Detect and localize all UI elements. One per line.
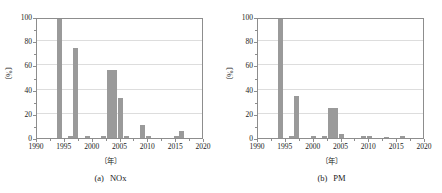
x-tick-mark bbox=[203, 139, 204, 142]
x-axis-ticks: 1990199520002005201020152020 bbox=[36, 139, 203, 155]
x-tick-label: 2005 bbox=[333, 143, 348, 151]
x-minor-tick-mark bbox=[189, 139, 190, 141]
x-tick-mark bbox=[36, 139, 37, 142]
y-axis-ticks: 020406080100 bbox=[221, 18, 253, 139]
x-tick-label: 2010 bbox=[361, 143, 376, 151]
bar bbox=[339, 134, 344, 138]
y-tick-label: 20 bbox=[25, 111, 33, 119]
y-tick-label: 100 bbox=[242, 14, 253, 22]
x-tick-mark bbox=[368, 139, 369, 142]
x-tick-label: 2020 bbox=[417, 143, 432, 151]
bar bbox=[179, 131, 184, 138]
x-minor-tick-mark bbox=[106, 139, 107, 141]
caption-id: (a) bbox=[95, 173, 104, 183]
bar bbox=[367, 136, 372, 138]
x-minor-tick-mark bbox=[161, 139, 162, 141]
bar bbox=[294, 96, 299, 138]
x-tick-label: 2005 bbox=[112, 143, 127, 151]
y-tick-label: 40 bbox=[246, 87, 254, 95]
x-tick-mark bbox=[396, 139, 397, 142]
x-minor-tick-mark bbox=[299, 139, 300, 141]
caption-text: PM bbox=[333, 173, 345, 183]
x-axis-label: 〔年〕 bbox=[0, 155, 221, 166]
plot-area bbox=[257, 18, 424, 139]
y-tick-label: 100 bbox=[21, 14, 32, 22]
x-tick-mark bbox=[175, 139, 176, 142]
figure-two-panel-bar-charts: 〔%〕 020406080100 19901995200020052010201… bbox=[0, 0, 442, 193]
x-minor-tick-mark bbox=[354, 139, 355, 141]
plot-area bbox=[36, 18, 203, 139]
x-minor-tick-mark bbox=[50, 139, 51, 141]
y-tick-label: 60 bbox=[25, 63, 33, 71]
x-tick-label: 1990 bbox=[250, 143, 265, 151]
bar bbox=[146, 136, 151, 138]
x-minor-tick-mark bbox=[382, 139, 383, 141]
x-tick-label: 2000 bbox=[305, 143, 320, 151]
plot-wrap bbox=[257, 18, 424, 139]
bar bbox=[124, 136, 129, 138]
x-tick-label: 2010 bbox=[140, 143, 155, 151]
x-tick-label: 1995 bbox=[277, 143, 292, 151]
bar bbox=[107, 70, 112, 138]
y-tick-label: 40 bbox=[25, 87, 33, 95]
x-axis-ticks: 1990199520002005201020152020 bbox=[257, 139, 424, 155]
bar bbox=[400, 136, 405, 138]
bar bbox=[112, 70, 117, 138]
bar bbox=[118, 98, 123, 138]
x-tick-mark bbox=[341, 139, 342, 142]
x-tick-label: 1995 bbox=[56, 143, 71, 151]
x-minor-tick-mark bbox=[271, 139, 272, 141]
x-tick-label: 1990 bbox=[29, 143, 44, 151]
y-axis-ticks: 020406080100 bbox=[0, 18, 32, 139]
x-minor-tick-mark bbox=[327, 139, 328, 141]
bar bbox=[57, 18, 62, 138]
x-minor-tick-mark bbox=[410, 139, 411, 141]
x-tick-mark bbox=[285, 139, 286, 142]
x-tick-mark bbox=[92, 139, 93, 142]
y-tick-label: 60 bbox=[246, 63, 254, 71]
y-tick-label: 20 bbox=[246, 111, 254, 119]
x-tick-label: 2015 bbox=[168, 143, 183, 151]
x-minor-tick-mark bbox=[78, 139, 79, 141]
plot-wrap bbox=[36, 18, 203, 139]
x-tick-mark bbox=[147, 139, 148, 142]
x-tick-mark bbox=[313, 139, 314, 142]
bar bbox=[140, 125, 145, 138]
bar bbox=[85, 136, 90, 138]
bar bbox=[289, 136, 294, 138]
y-tick-label: 80 bbox=[25, 38, 33, 46]
bar bbox=[68, 136, 73, 138]
bar bbox=[311, 136, 316, 138]
bar bbox=[328, 108, 333, 138]
x-tick-label: 2000 bbox=[84, 143, 99, 151]
caption-id: (b) bbox=[317, 173, 327, 183]
x-tick-mark bbox=[120, 139, 121, 142]
bar bbox=[101, 136, 106, 138]
bar bbox=[361, 136, 366, 138]
x-tick-mark bbox=[257, 139, 258, 142]
panel-caption: (b)PM bbox=[221, 173, 442, 183]
bar bbox=[384, 137, 389, 138]
panel-b-pm: 〔%〕 020406080100 19901995200020052010201… bbox=[221, 0, 442, 193]
x-minor-tick-mark bbox=[133, 139, 134, 141]
x-tick-label: 2015 bbox=[389, 143, 404, 151]
bar bbox=[278, 18, 283, 138]
bar bbox=[333, 108, 338, 138]
x-tick-mark bbox=[424, 139, 425, 142]
x-tick-mark bbox=[64, 139, 65, 142]
bar bbox=[322, 136, 327, 138]
bar bbox=[73, 48, 78, 138]
x-tick-label: 2020 bbox=[196, 143, 211, 151]
bar bbox=[174, 136, 179, 138]
panel-a-nox: 〔%〕 020406080100 19901995200020052010201… bbox=[0, 0, 221, 193]
x-axis-label: 〔年〕 bbox=[221, 155, 442, 166]
caption-text: NOx bbox=[110, 173, 127, 183]
panel-caption: (a)NOx bbox=[0, 173, 221, 183]
y-tick-label: 80 bbox=[246, 38, 254, 46]
